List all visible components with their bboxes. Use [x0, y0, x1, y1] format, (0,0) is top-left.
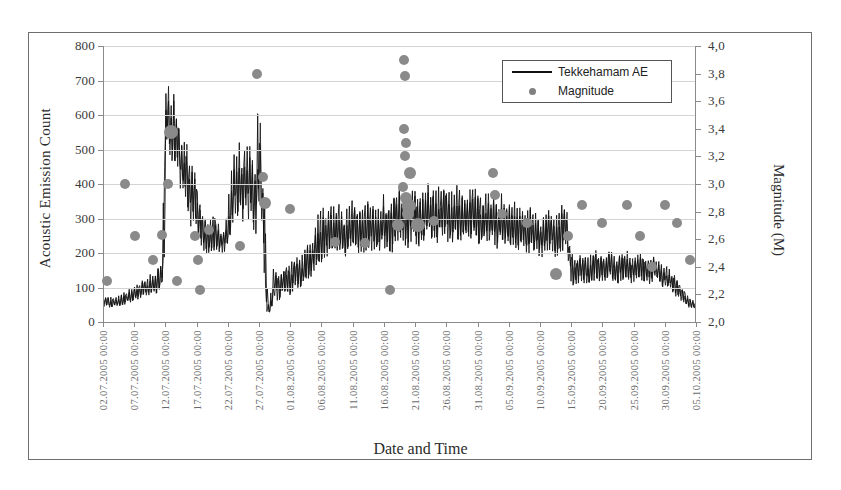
- magnitude-point: [164, 125, 178, 139]
- legend-item-magnitude[interactable]: Magnitude: [503, 81, 671, 101]
- y-axis-left-tick-mark: [98, 219, 103, 220]
- y-axis-right-tick-label: 3,6: [708, 93, 754, 109]
- y-axis-left-line: [103, 46, 104, 322]
- gridline: [103, 46, 696, 47]
- magnitude-point: [429, 216, 439, 226]
- x-axis-tick-label: 21.08.2005 00:00: [410, 330, 421, 410]
- y-axis-left-tick-label: 0: [35, 314, 95, 330]
- y-axis-right-title: Magnitude (M): [767, 110, 789, 310]
- magnitude-point: [647, 262, 657, 272]
- x-axis-tick-mark: [197, 322, 198, 327]
- y-axis-right-tick-mark: [696, 267, 701, 268]
- y-axis-left-tick-mark: [98, 253, 103, 254]
- x-axis-tick-label: 30.09.2005 00:00: [660, 330, 671, 410]
- y-axis-left-tick-label: 700: [35, 73, 95, 89]
- x-axis-tick-label: 02.07.2005 00:00: [98, 330, 109, 410]
- magnitude-point: [259, 197, 271, 209]
- magnitude-point: [497, 209, 507, 219]
- y-axis-right-tick-label: 2,0: [708, 314, 754, 330]
- y-axis-left-tick-label: 300: [35, 211, 95, 227]
- magnitude-point: [411, 218, 425, 232]
- y-axis-right-tick-label: 2,4: [708, 259, 754, 275]
- x-axis-tick-mark: [696, 322, 697, 327]
- x-axis-tick-label: 12.07.2005 00:00: [160, 330, 171, 410]
- magnitude-point: [400, 71, 410, 81]
- magnitude-point: [360, 238, 370, 248]
- x-axis-tick-label: 05.10.2005 00:00: [691, 330, 702, 410]
- x-axis-tick-mark: [134, 322, 135, 327]
- y-axis-left-tick-mark: [98, 150, 103, 151]
- x-axis-tick-label: 15.09.2005 00:00: [566, 330, 577, 410]
- magnitude-point: [399, 124, 409, 134]
- x-axis-tick-label: 07.07.2005 00:00: [129, 330, 140, 410]
- magnitude-point: [392, 219, 404, 231]
- magnitude-point: [635, 231, 645, 241]
- y-axis-left-tick-label: 500: [35, 142, 95, 158]
- y-axis-right-tick-mark: [696, 46, 701, 47]
- x-axis-tick-label: 01.08.2005 00:00: [285, 330, 296, 410]
- x-axis-tick-mark: [353, 322, 354, 327]
- y-axis-right-tick-label: 2,6: [708, 231, 754, 247]
- x-axis-tick-mark: [321, 322, 322, 327]
- gridline: [103, 150, 696, 151]
- x-axis-tick-mark: [634, 322, 635, 327]
- magnitude-point: [172, 276, 182, 286]
- magnitude-point: [400, 151, 410, 161]
- magnitude-point: [622, 200, 632, 210]
- x-axis-tick-label: 27.07.2005 00:00: [254, 330, 265, 410]
- x-axis-tick-label: 10.09.2005 00:00: [535, 330, 546, 410]
- magnitude-point: [672, 218, 682, 228]
- magnitude-point: [490, 190, 500, 200]
- x-axis-tick-mark: [665, 322, 666, 327]
- magnitude-point: [401, 138, 411, 148]
- y-axis-right-tick-mark: [696, 294, 701, 295]
- magnitude-point: [522, 218, 532, 228]
- x-axis-tick-mark: [602, 322, 603, 327]
- magnitude-point: [148, 255, 158, 265]
- gridline: [103, 115, 696, 116]
- magnitude-point: [550, 268, 562, 280]
- y-axis-left-tick-mark: [98, 184, 103, 185]
- x-axis-tick-label: 11.08.2005 00:00: [348, 330, 359, 410]
- y-axis-right-tick-label: 2,2: [708, 286, 754, 302]
- y-axis-right-tick-mark: [696, 156, 701, 157]
- chart-legend: Tekkehamam AE Magnitude: [502, 60, 672, 103]
- y-axis-right-tick-label: 4,0: [708, 38, 754, 54]
- magnitude-point: [402, 208, 414, 220]
- y-axis-left-tick-label: 400: [35, 176, 95, 192]
- x-axis-title: Date and Time: [0, 440, 841, 458]
- x-axis-ticks: 02.07.2005 00:0007.07.2005 00:0012.07.20…: [103, 322, 696, 432]
- y-axis-right-tick-mark: [696, 101, 701, 102]
- x-axis-tick-label: 20.09.2005 00:00: [597, 330, 608, 410]
- x-axis-tick-mark: [540, 322, 541, 327]
- magnitude-point: [120, 179, 130, 189]
- gridline: [103, 288, 696, 289]
- y-axis-right-tick-label: 3,8: [708, 66, 754, 82]
- magnitude-point: [252, 69, 262, 79]
- x-axis-tick-label: 26.08.2005 00:00: [441, 330, 452, 410]
- legend-label-magnitude: Magnitude: [558, 84, 614, 98]
- y-axis-left-tick-mark: [98, 115, 103, 116]
- y-axis-right-tick-label: 3,4: [708, 121, 754, 137]
- y-axis-right-tick-mark: [696, 129, 701, 130]
- magnitude-point: [195, 285, 205, 295]
- y-axis-right-tick-mark: [696, 212, 701, 213]
- x-axis-tick-label: 16.08.2005 00:00: [379, 330, 390, 410]
- x-axis-tick-mark: [228, 322, 229, 327]
- y-axis-right-tick-label: 3,0: [708, 176, 754, 192]
- y-axis-left-tick-mark: [98, 81, 103, 82]
- y-axis-right-tick-label: 2,8: [708, 204, 754, 220]
- magnitude-point: [130, 231, 140, 241]
- magnitude-point: [193, 255, 203, 265]
- magnitude-point: [685, 255, 695, 265]
- y-axis-left-tick-mark: [98, 288, 103, 289]
- x-axis-tick-mark: [509, 322, 510, 327]
- legend-label-ae: Tekkehamam AE: [558, 65, 648, 79]
- x-axis-tick-mark: [446, 322, 447, 327]
- magnitude-point: [258, 172, 268, 182]
- x-axis-tick-mark: [165, 322, 166, 327]
- x-axis-tick-label: 05.09.2005 00:00: [504, 330, 515, 410]
- legend-line-marker: [512, 71, 552, 73]
- magnitude-point: [330, 237, 340, 247]
- legend-item-ae[interactable]: Tekkehamam AE: [503, 62, 671, 82]
